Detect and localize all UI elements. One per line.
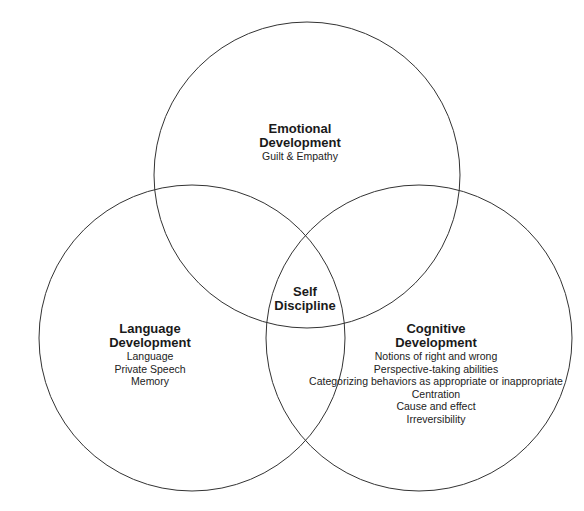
cognitive-item: Centration bbox=[309, 388, 563, 401]
cognitive-label: Cognitive Development Notions of right a… bbox=[309, 322, 563, 425]
cognitive-item: Perspective-taking abilities bbox=[309, 363, 563, 376]
emotional-circle bbox=[154, 22, 460, 328]
cognitive-item: Notions of right and wrong bbox=[309, 350, 563, 363]
language-title-1: Language bbox=[109, 322, 191, 336]
emotional-title-1: Emotional bbox=[259, 122, 341, 136]
language-item: Private Speech bbox=[109, 363, 191, 376]
self-discipline-label: Self Discipline bbox=[274, 285, 335, 313]
emotional-label: Emotional Development Guilt & Empathy bbox=[259, 122, 341, 163]
emotional-title-2: Development bbox=[259, 136, 341, 150]
venn-diagram bbox=[0, 0, 584, 511]
language-label: Language Development Language Private Sp… bbox=[109, 322, 191, 388]
emotional-item: Guilt & Empathy bbox=[259, 150, 341, 163]
language-item: Memory bbox=[109, 375, 191, 388]
cognitive-item: Categorizing behaviors as appropriate or… bbox=[309, 375, 563, 388]
cognitive-item: Cause and effect bbox=[309, 400, 563, 413]
language-item: Language bbox=[109, 350, 191, 363]
cognitive-title-1: Cognitive bbox=[309, 322, 563, 336]
language-circle bbox=[39, 185, 345, 491]
language-title-2: Development bbox=[109, 336, 191, 350]
center-title-1: Self bbox=[274, 285, 335, 299]
cognitive-item: Irreversibility bbox=[309, 413, 563, 426]
center-title-2: Discipline bbox=[274, 299, 335, 313]
cognitive-title-2: Development bbox=[309, 336, 563, 350]
